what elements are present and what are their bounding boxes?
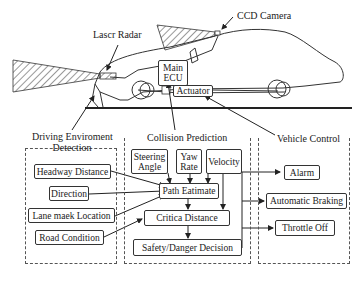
vehicle-control-title: Vehicle Control bbox=[275, 133, 342, 144]
camera-beam bbox=[157, 25, 215, 50]
actuator-box: Actuator bbox=[173, 85, 213, 97]
throttle-off-box: Throttle Off bbox=[275, 220, 335, 236]
radar-beam bbox=[13, 60, 100, 92]
rate-label: Rate bbox=[180, 162, 197, 172]
main-ecu-label: Main ECU bbox=[160, 63, 186, 83]
steering-label: Steering bbox=[134, 152, 166, 162]
ccd-camera-label: CCD Camera bbox=[237, 10, 291, 21]
safety-danger-decision-box: Safety/Danger Decision bbox=[133, 239, 242, 256]
throttle-off-label: Throttle Off bbox=[282, 223, 328, 233]
automatic-braking-box: Automatic Braking bbox=[266, 193, 347, 209]
automatic-braking-label: Automatic Braking bbox=[270, 196, 343, 206]
laser-radar-label: Lascr Radar bbox=[93, 29, 142, 40]
steering-angle-box: Steering Angle bbox=[131, 149, 168, 174]
road-condition-box: Road Condition bbox=[35, 230, 104, 245]
main-ecu-box: Main ECU bbox=[158, 60, 188, 86]
yaw-rate-box: Yaw Rate bbox=[176, 149, 202, 174]
collision-prediction-title: Collision Prediction bbox=[145, 132, 229, 143]
velocity-box: Velocity bbox=[206, 149, 242, 174]
alarm-label: Alarm bbox=[290, 168, 314, 178]
lane-mark-location-label: Lane maek Location bbox=[32, 211, 110, 221]
driving-environment-title: Driving Enviroment Detection bbox=[32, 131, 112, 153]
headway-distance-box: Headway Distance bbox=[34, 164, 111, 179]
velocity-label: Velocity bbox=[208, 157, 240, 167]
direction-label: Direction bbox=[51, 189, 87, 199]
laser-radar-sensor bbox=[100, 73, 116, 79]
path-estimate-box: Path Eatimate bbox=[159, 183, 219, 199]
actuator-label: Actuator bbox=[176, 86, 209, 96]
critical-distance-label: Critica Distance bbox=[156, 213, 217, 223]
headway-distance-label: Headway Distance bbox=[37, 167, 108, 177]
road-condition-label: Road Condition bbox=[39, 233, 99, 243]
alarm-box: Alarm bbox=[284, 165, 320, 180]
direction-box: Direction bbox=[49, 186, 89, 201]
title-line-1: Driving Enviroment bbox=[32, 131, 112, 142]
path-estimate-label: Path Eatimate bbox=[162, 186, 215, 196]
ccd-camera-sensor bbox=[215, 31, 220, 35]
safety-danger-decision-label: Safety/Danger Decision bbox=[142, 243, 233, 253]
critical-distance-box: Critica Distance bbox=[144, 210, 230, 226]
title-line-2: Detection bbox=[32, 142, 112, 153]
yaw-label: Yaw bbox=[181, 152, 198, 162]
car-outline bbox=[92, 29, 343, 107]
lane-mark-location-box: Lane maek Location bbox=[28, 208, 115, 223]
angle-label: Angle bbox=[138, 162, 161, 172]
